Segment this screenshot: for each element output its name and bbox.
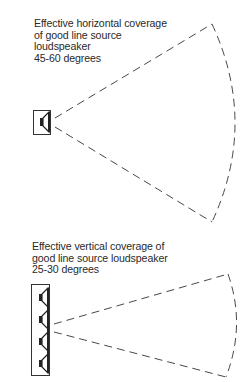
- speaker-driver: [39, 332, 48, 351]
- speaker-column-icon: [32, 285, 50, 376]
- horizontal-coverage-diagram: [34, 24, 236, 222]
- vertical-coverage-diagram: [32, 274, 237, 377]
- vertical-coverage-wedge: [54, 274, 237, 377]
- coverage-diagrams: [0, 0, 251, 382]
- speaker-driver: [39, 354, 48, 373]
- speaker-driver: [39, 288, 48, 307]
- single-speaker-icon: [34, 111, 51, 135]
- speaker-driver: [39, 310, 48, 329]
- horizontal-coverage-wedge: [55, 24, 235, 222]
